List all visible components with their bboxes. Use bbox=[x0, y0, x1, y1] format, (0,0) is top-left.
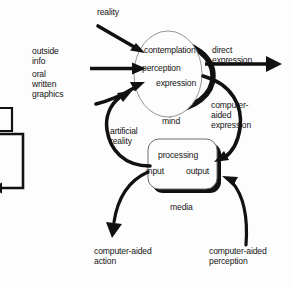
media-item-output: output bbox=[186, 166, 209, 176]
label-computer-aided-expression-line3: expression bbox=[211, 121, 251, 131]
label-graphics: graphics bbox=[32, 90, 63, 100]
label-info: info bbox=[32, 57, 45, 67]
computer-aided-action-arrow bbox=[106, 172, 148, 238]
mind-node-shape bbox=[127, 31, 218, 117]
mind-caption: mind bbox=[162, 117, 180, 127]
diagram-canvas: reality outside info oral written graphi… bbox=[0, 0, 291, 288]
mind-item-contemplation: contemplation bbox=[144, 45, 196, 55]
label-artificial-reality-line2: reality bbox=[110, 137, 132, 147]
label-reality: reality bbox=[97, 8, 119, 18]
media-item-input: input bbox=[146, 166, 164, 176]
mind-item-expression: expression bbox=[156, 78, 196, 88]
media-caption: media bbox=[170, 203, 193, 213]
computer-aided-perception-arrow bbox=[222, 176, 246, 245]
diagram-graphics bbox=[0, 0, 291, 288]
partial-left-box-shape bbox=[0, 108, 23, 194]
media-item-processing: processing bbox=[158, 150, 198, 160]
reality-arrow bbox=[98, 26, 145, 53]
label-computer-aided-action-line2: action bbox=[94, 257, 116, 267]
label-computer-aided-perception-line2: perception bbox=[209, 257, 248, 267]
mind-item-perception: perception bbox=[142, 63, 181, 73]
label-direct-expression-line2: expression bbox=[212, 56, 252, 66]
